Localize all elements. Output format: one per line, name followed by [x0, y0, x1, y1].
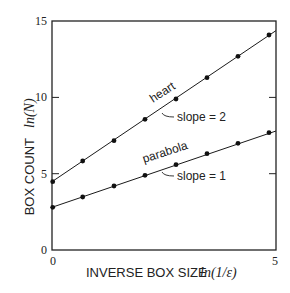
x-axis-math: ln(1/ε)	[200, 265, 237, 281]
data-point	[112, 138, 117, 143]
data-point	[50, 205, 55, 210]
box-counting-chart: 15 10 5 0 0 5 BOX COUNT ln(N) INVERSE BO…	[0, 0, 290, 293]
data-point	[80, 159, 85, 164]
y-axis-math: ln(N)	[22, 98, 38, 128]
series-heart	[50, 31, 276, 185]
data-point	[205, 75, 210, 80]
data-point	[267, 130, 272, 135]
xtick-label-5: 5	[272, 254, 278, 268]
ytick-label-5: 5	[41, 167, 47, 181]
annotation-slope-2: slope = 2	[177, 110, 226, 124]
data-point	[80, 195, 85, 200]
data-point	[143, 173, 148, 178]
plot-frame	[52, 21, 276, 250]
data-point	[236, 141, 241, 146]
data-point	[267, 33, 272, 38]
y-ticks-right	[269, 97, 276, 173]
xtick-label-0: 0	[50, 254, 56, 268]
ytick-label-0: 0	[41, 243, 47, 257]
data-point	[174, 162, 179, 167]
data-point	[205, 151, 210, 156]
data-point	[143, 117, 148, 122]
x-axis-title: INVERSE BOX SIZE	[86, 265, 207, 280]
label-parabola: parabola	[141, 138, 190, 166]
data-point	[112, 184, 117, 189]
data-point	[174, 97, 179, 102]
data-point	[50, 179, 55, 184]
series-parabola	[50, 130, 276, 209]
annotation-slope-1: slope = 1	[177, 169, 226, 183]
y-ticks-left	[52, 97, 59, 173]
data-point	[236, 54, 241, 59]
ytick-label-15: 15	[35, 14, 47, 28]
leader-slope-1	[162, 172, 174, 176]
label-heart: heart	[147, 79, 178, 106]
y-axis-title: BOX COUNT	[22, 138, 37, 215]
leader-slope-2	[162, 113, 174, 117]
